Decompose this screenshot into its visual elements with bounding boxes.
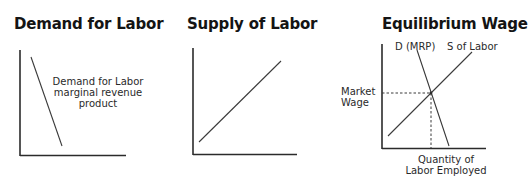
- market-wage-label-line-2: Wage: [341, 97, 375, 108]
- market-wage-label-line-1: Market: [341, 86, 375, 97]
- equilibrium-supply-curve: [388, 52, 472, 136]
- market-wage-label: Market Wage: [341, 86, 375, 108]
- demand-curve-label: Demand for Labor marginal revenue produc…: [46, 76, 150, 109]
- demand-curve-label-line-1: Demand for Labor: [46, 76, 150, 87]
- demand-curve-label-line-2: marginal revenue: [46, 87, 150, 98]
- quantity-labor-label-line-2: Labor Employed: [404, 165, 488, 176]
- equilibrium-title: Equilibrium Wage: [382, 15, 528, 33]
- supply-chart: [193, 48, 297, 155]
- equilibrium-demand-curve: [417, 50, 449, 146]
- supply-title: Supply of Labor: [187, 15, 317, 33]
- demand-title: Demand for Labor: [14, 15, 163, 33]
- demand-curve-label-line-3: product: [46, 98, 150, 109]
- supply-of-labor-label: S of Labor: [447, 41, 498, 52]
- equilibrium-chart: [382, 44, 486, 149]
- quantity-labor-label: Quantity of Labor Employed: [404, 154, 488, 176]
- equilibrium-point: [430, 92, 433, 95]
- supply-curve: [199, 61, 281, 142]
- quantity-labor-label-line-1: Quantity of: [404, 154, 488, 165]
- demand-mrp-label: D (MRP): [395, 41, 435, 52]
